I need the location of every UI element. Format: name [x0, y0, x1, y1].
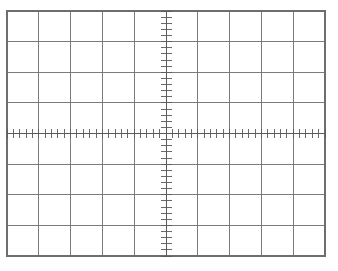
- canvas-background: [0, 0, 338, 271]
- oscilloscope-graticule: [0, 0, 338, 271]
- vertical-axis-tick-marks: [161, 11, 172, 256]
- graticule-container: [0, 0, 338, 271]
